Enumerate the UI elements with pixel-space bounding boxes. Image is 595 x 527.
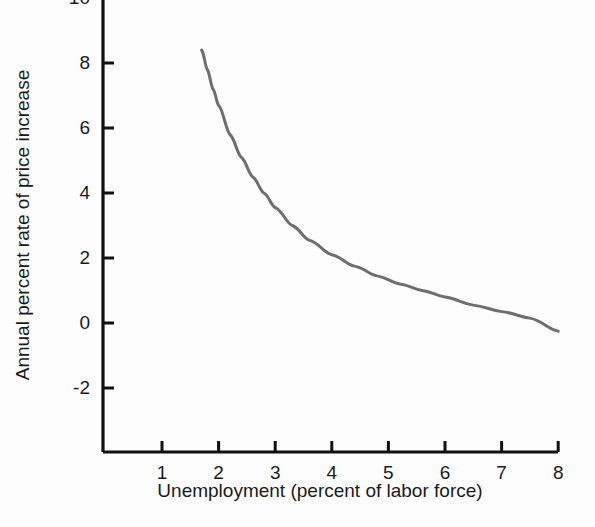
y-tick-label: 4 xyxy=(40,182,90,204)
x-tick-label: 3 xyxy=(270,462,281,484)
x-tick-label: 8 xyxy=(553,462,564,484)
y-tick-label: 8 xyxy=(40,52,90,74)
x-tick-label: 2 xyxy=(213,462,224,484)
y-tick-label: 6 xyxy=(40,117,90,139)
phillips-curve-chart: Annual percent rate of price increase Un… xyxy=(0,0,595,527)
y-axis-title: Annual percent rate of price increase xyxy=(8,0,38,455)
x-tick-label: 7 xyxy=(496,462,507,484)
curve-line xyxy=(202,50,559,331)
axis-ticks xyxy=(103,0,558,452)
y-tick-label: 10 xyxy=(40,0,90,9)
data-series xyxy=(202,50,559,331)
y-tick-label: 0 xyxy=(40,312,90,334)
y-tick-label: -2 xyxy=(40,377,90,399)
axis-lines xyxy=(103,0,558,452)
y-tick-label: 2 xyxy=(40,247,90,269)
x-tick-label: 1 xyxy=(157,462,168,484)
x-tick-label: 6 xyxy=(440,462,451,484)
x-tick-label: 4 xyxy=(327,462,338,484)
x-tick-label: 5 xyxy=(383,462,394,484)
